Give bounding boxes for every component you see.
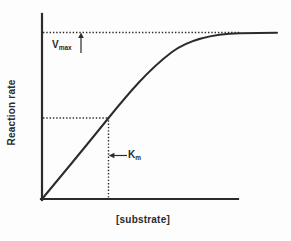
michaelis-menten-curve	[42, 33, 277, 199]
vmax-subscript: max	[59, 44, 72, 51]
km-arrow-icon	[109, 153, 127, 159]
vmax-symbol: V	[52, 39, 59, 50]
michaelis-menten-figure: Reaction rate [substrate] Vmax Km	[0, 0, 291, 241]
vmax-annotation: Vmax	[52, 39, 72, 50]
y-axis-label: Reaction rate	[6, 86, 17, 146]
km-subscript: m	[135, 154, 141, 161]
km-annotation: Km	[128, 149, 141, 160]
plot-canvas	[0, 0, 291, 241]
x-axis-label: [substrate]	[100, 214, 186, 225]
vmax-arrow-icon	[78, 33, 84, 54]
